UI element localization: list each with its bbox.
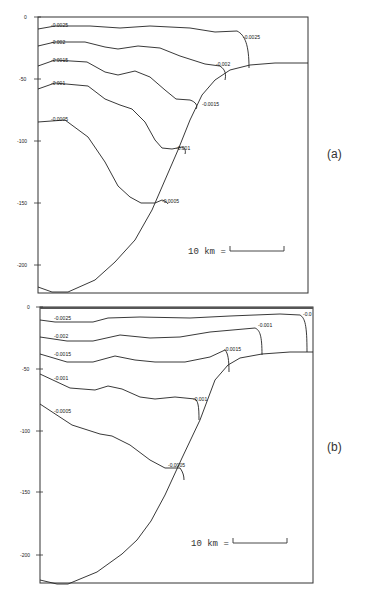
contour-label: -0.001 xyxy=(176,145,190,151)
panel-b: 0 -50 -100 -150 -200 -0.0025 -0.002 -0.0… xyxy=(20,304,342,584)
y-tick-label: -150 xyxy=(17,200,27,206)
contour-label: -0.001 xyxy=(258,322,272,328)
panel-a-label: (a) xyxy=(327,147,342,161)
contour-label: -0.001 xyxy=(51,80,65,86)
panel-a: 0 -50 -100 -150 -200 -0.0025 -0.002 -0.0… xyxy=(17,14,342,293)
y-tick-label: -150 xyxy=(20,489,30,495)
y-tick-label: -200 xyxy=(20,552,30,558)
contour-label: -0.0025 xyxy=(51,22,68,28)
contour-label: -0.0015 xyxy=(224,346,241,352)
contour-label: -0.001 xyxy=(193,396,207,402)
y-tick-label: -100 xyxy=(20,428,30,434)
contour-label: -0.0 xyxy=(303,311,312,317)
scale-bar-label: 10 km = xyxy=(188,247,226,257)
panel-b-label: (b) xyxy=(327,440,342,454)
contour-0025 xyxy=(40,314,307,352)
contour-label: -0.0005 xyxy=(168,462,185,468)
contour-label: -0.0005 xyxy=(54,408,71,414)
contour-label: -0.0005 xyxy=(162,198,179,204)
panel-a-frame xyxy=(38,17,308,293)
contour-label: -0.0015 xyxy=(54,351,71,357)
contour-label: -0.0015 xyxy=(51,57,68,63)
scale-bar-label: 10 km = xyxy=(191,539,229,549)
contour-label: -0.0025 xyxy=(243,34,260,40)
contour-label: -0.002 xyxy=(216,61,230,67)
contour-label: -0.002 xyxy=(54,333,68,339)
y-tick-label: -200 xyxy=(17,262,27,268)
contour-label: -0.002 xyxy=(51,39,65,45)
figure-canvas: 0 -50 -100 -150 -200 -0.0025 -0.002 -0.0… xyxy=(0,0,373,599)
contour-label: -0.0005 xyxy=(51,116,68,122)
y-tick-label: -50 xyxy=(19,76,26,82)
y-tick-label: -100 xyxy=(17,138,27,144)
contour-label: -0.0015 xyxy=(202,101,219,107)
contour-0005 xyxy=(38,120,168,204)
contour-label: -0.0025 xyxy=(54,315,71,321)
panel-b-frame xyxy=(40,307,313,583)
contour-0005 xyxy=(40,404,184,480)
panel-a-y-axis: 0 -50 -100 -150 -200 xyxy=(17,14,41,268)
contour-label: -0.001 xyxy=(54,375,68,381)
y-tick-label: 0 xyxy=(24,14,27,20)
y-tick-label: -50 xyxy=(22,366,29,372)
panel-a-bathymetry xyxy=(38,63,308,292)
panel-a-scale-bar: 10 km = xyxy=(188,246,284,257)
panel-b-scale-bar: 10 km = xyxy=(191,538,287,549)
y-tick-label: 0 xyxy=(27,304,30,310)
